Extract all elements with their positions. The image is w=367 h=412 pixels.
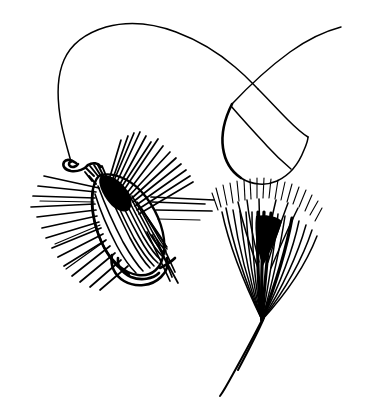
illustration-canvas bbox=[0, 0, 367, 412]
hackle-fiber-r2 bbox=[156, 210, 212, 211]
line-drawing-svg bbox=[0, 0, 367, 412]
